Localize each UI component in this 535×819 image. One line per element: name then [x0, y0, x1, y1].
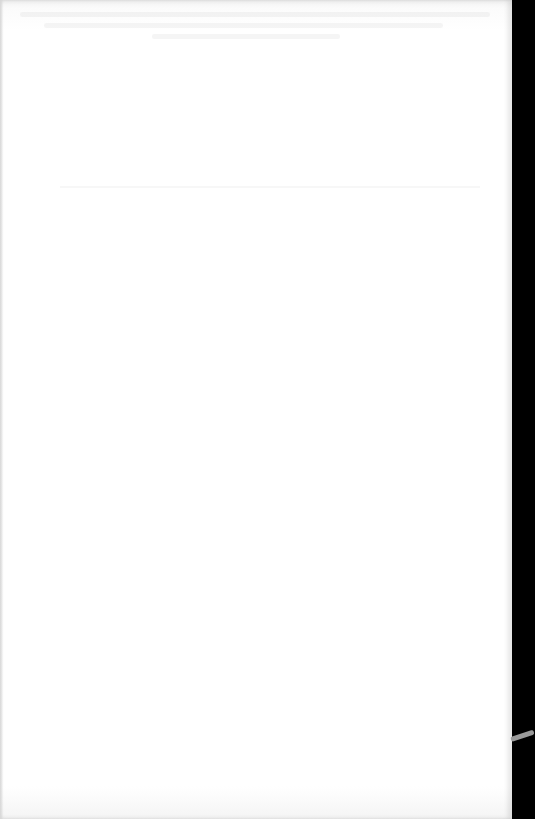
faint-bleed-rule [60, 186, 480, 188]
bleed-through-line [152, 34, 340, 39]
bleed-through-text [20, 6, 490, 66]
blank-scanned-page [0, 0, 512, 819]
bleed-through-line [44, 23, 444, 28]
page-left-edge [0, 0, 3, 819]
bleed-through-line [20, 12, 490, 17]
scanner-dark-edge [512, 0, 531, 819]
